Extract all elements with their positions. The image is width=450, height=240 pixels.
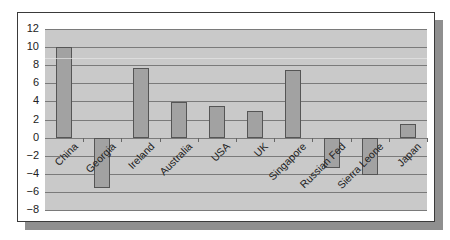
gridline	[45, 210, 427, 211]
plot-area	[45, 29, 427, 210]
y-tick-label: 0	[15, 131, 39, 143]
gridline	[45, 192, 427, 193]
x-tick	[198, 138, 199, 142]
y-tick-label: 2	[15, 113, 39, 125]
gridline	[45, 65, 427, 66]
x-tick	[121, 138, 122, 142]
bar-uk	[247, 111, 263, 137]
bar-singapore	[285, 70, 301, 138]
y-tick-label: −4	[15, 167, 39, 179]
x-tick	[427, 138, 428, 142]
x-tick	[160, 138, 161, 142]
gridline	[45, 29, 427, 30]
x-tick	[312, 138, 313, 142]
gridline	[45, 83, 427, 84]
scan-glare	[45, 58, 427, 59]
y-tick-label: −2	[15, 149, 39, 161]
y-tick-label: −8	[15, 203, 39, 215]
bar-usa	[209, 106, 225, 138]
y-tick-label: 4	[15, 94, 39, 106]
y-tick-label: 8	[15, 58, 39, 70]
bar-china	[56, 47, 72, 138]
x-tick	[351, 138, 352, 142]
x-tick	[83, 138, 84, 142]
x-tick	[236, 138, 237, 142]
gridline	[45, 120, 427, 121]
bar-australia	[171, 102, 187, 137]
gridline	[45, 101, 427, 102]
y-tick-label: 10	[15, 40, 39, 52]
x-tick	[389, 138, 390, 142]
y-tick-label: 12	[15, 22, 39, 34]
x-tick	[274, 138, 275, 142]
gridline	[45, 47, 427, 48]
y-tick-label: −6	[15, 185, 39, 197]
bar-japan	[400, 124, 416, 138]
y-tick-label: 6	[15, 76, 39, 88]
bar-ireland	[133, 68, 149, 138]
